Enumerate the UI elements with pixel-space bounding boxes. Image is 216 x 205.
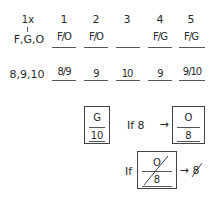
tick-mark bbox=[27, 27, 28, 32]
number-underline-1 bbox=[52, 80, 76, 81]
number-underline-2 bbox=[84, 80, 108, 81]
letter-underline-5 bbox=[179, 47, 205, 48]
number-entry-4: 9 bbox=[147, 69, 173, 79]
column-header-3: 3 bbox=[114, 14, 140, 25]
letter-entry-4: F/G bbox=[147, 32, 173, 42]
number-underline-4 bbox=[148, 80, 172, 81]
letter-underline-4 bbox=[148, 47, 172, 48]
box2-bottom: 8 bbox=[173, 130, 204, 141]
rule-box-crossed: O 8 bbox=[137, 151, 177, 189]
arrow-icon: → bbox=[158, 119, 170, 130]
number-entry-1: 8/9 bbox=[51, 67, 77, 77]
letter-entry-1: F/O bbox=[51, 32, 77, 42]
number-entry-5: 9/10 bbox=[176, 67, 208, 77]
arrow-icon-2: → bbox=[178, 165, 190, 176]
letter-entry-2: F/O bbox=[83, 32, 109, 42]
column-header-4: 4 bbox=[147, 14, 173, 25]
number-underline-5 bbox=[179, 80, 205, 81]
multiplier-label: 1x bbox=[20, 15, 36, 25]
box2-fraction-bar bbox=[177, 127, 200, 128]
rule-box-g-10: G 10 bbox=[84, 106, 110, 144]
number-entry-2: 9 bbox=[83, 69, 109, 79]
letter-entry-5: F/G bbox=[178, 32, 204, 42]
strike-result-icon bbox=[190, 162, 204, 178]
box2-underline bbox=[177, 141, 200, 142]
column-header-2: 2 bbox=[83, 14, 109, 25]
box1-bottom: 10 bbox=[85, 130, 109, 141]
rule2-condition: If bbox=[125, 166, 137, 177]
rule1-condition: If 8 bbox=[127, 120, 155, 131]
box1-underline bbox=[89, 141, 105, 142]
rule-box-o-8: O 8 bbox=[172, 106, 205, 144]
box1-top: G bbox=[85, 112, 109, 123]
numbers-row-label: 8,9,10 bbox=[6, 69, 48, 80]
column-header-1: 1 bbox=[51, 14, 77, 25]
letter-underline-2 bbox=[84, 47, 108, 48]
letter-underline-1 bbox=[52, 47, 76, 48]
box2-top: O bbox=[173, 112, 204, 123]
column-header-5: 5 bbox=[178, 14, 204, 25]
number-underline-3 bbox=[116, 80, 140, 81]
strike-slash-icon bbox=[138, 152, 176, 188]
letter-underline-3 bbox=[116, 47, 140, 48]
number-entry-3: 10 bbox=[114, 69, 140, 79]
box1-fraction-bar bbox=[89, 127, 105, 128]
letters-row-label: F,G,O bbox=[11, 34, 47, 45]
